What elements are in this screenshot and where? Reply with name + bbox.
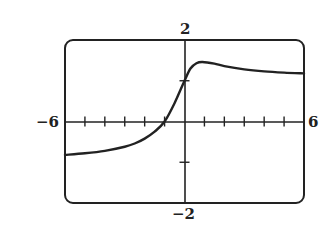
y-min-label: −2: [172, 207, 195, 222]
y-max-label: 2: [180, 22, 190, 37]
x-min-label: −6: [36, 115, 59, 130]
x-max-label: 6: [308, 115, 318, 130]
